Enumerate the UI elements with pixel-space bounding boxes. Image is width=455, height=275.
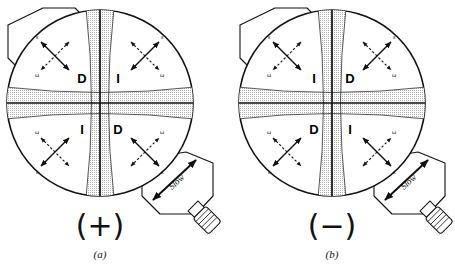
panel-a-caption-symbol: (+) — [76, 208, 125, 243]
omega-label-top-right: ω — [160, 72, 164, 78]
epsilon-label-bottom-right: ε — [393, 169, 396, 175]
epsilon-label-top-left: ε — [36, 34, 39, 40]
omega-label-bottom-right: ω — [160, 129, 164, 135]
panel-a-drawing: D I I D ε ω ε ω ω ε — [0, 0, 227, 275]
quadrant-label-bottom-right: D — [113, 122, 122, 137]
quadrant-label-bottom-right: I — [348, 122, 352, 137]
quadrant-label-bottom-left: I — [80, 122, 84, 137]
epsilon-label-bottom-right: ε — [161, 169, 164, 175]
figure-canvas: D I I D ε ω ε ω ω ε — [0, 0, 455, 275]
quadrant-label-bottom-left: D — [309, 122, 318, 137]
epsilon-label-top-left: ε — [268, 34, 271, 40]
quadrant-label-top-right: I — [116, 71, 120, 86]
panel-b: I D D I ε ω ε ω ω ε — [228, 0, 455, 275]
omega-label-top-left: ω — [267, 72, 271, 78]
omega-label-bottom-left: ω — [267, 129, 271, 135]
panel-b-caption-letter: (b) — [326, 248, 339, 261]
epsilon-label-bottom-left: ε — [268, 169, 271, 175]
quadrant-label-top-left: D — [77, 71, 86, 86]
omega-label-bottom-left: ω — [35, 129, 39, 135]
omega-label-top-right: ω — [392, 72, 396, 78]
panel-a: D I I D ε ω ε ω ω ε — [0, 0, 227, 275]
panel-b-drawing: I D D I ε ω ε ω ω ε — [228, 0, 455, 275]
omega-label-bottom-right: ω — [392, 129, 396, 135]
panel-b-caption-symbol: (−) — [308, 208, 357, 243]
panel-a-caption-letter: (a) — [94, 248, 107, 261]
quadrant-label-top-right: D — [345, 71, 354, 86]
epsilon-label-bottom-left: ε — [36, 169, 39, 175]
epsilon-label-top-right: ε — [393, 34, 396, 40]
omega-label-top-left: ω — [35, 72, 39, 78]
epsilon-label-top-right: ε — [161, 34, 164, 40]
quadrant-label-top-left: I — [312, 71, 316, 86]
